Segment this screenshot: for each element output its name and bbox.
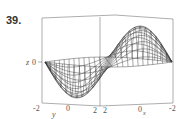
- x-tick-0: 0: [138, 105, 142, 114]
- x-tick-2: 2: [103, 106, 107, 115]
- z-tick-0: 0: [32, 58, 36, 67]
- x-tick-neg2: -2: [169, 104, 176, 113]
- wireframe-mesh: [45, 26, 172, 98]
- axis-labels: z 0 -2 y 0 2 2 0 x -2: [25, 58, 176, 119]
- surface-plot: z 0 -2 y 0 2 2 0 x -2: [0, 0, 195, 119]
- y-tick-neg2: -2: [33, 104, 40, 113]
- y-tick-2: 2: [93, 106, 97, 115]
- z-axis-label: z: [25, 58, 30, 67]
- mesh-line: [137, 26, 143, 66]
- y-axis-label: y: [51, 110, 56, 119]
- mesh-line: [74, 59, 80, 99]
- y-tick-0: 0: [66, 104, 70, 113]
- x-axis-label: x: [142, 110, 146, 116]
